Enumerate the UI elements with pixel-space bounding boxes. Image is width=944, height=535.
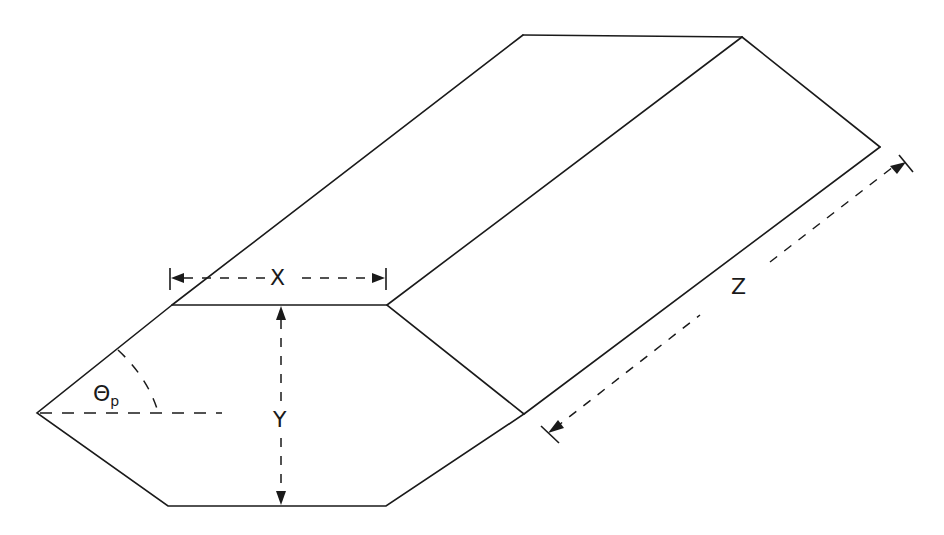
prism-drawing bbox=[0, 0, 944, 535]
edge-back-top bbox=[523, 35, 742, 37]
theta-angle bbox=[40, 350, 222, 413]
theta-subscript: p bbox=[110, 393, 119, 409]
edge-bottom-right-receding bbox=[524, 147, 880, 414]
y-label: Y bbox=[273, 409, 286, 431]
z-label: Z bbox=[731, 276, 746, 298]
theta-label: Θp bbox=[93, 383, 119, 408]
x-label: X bbox=[270, 267, 285, 289]
z-dimension bbox=[541, 155, 913, 443]
edge-top-left-receding bbox=[172, 35, 523, 305]
y-dimension bbox=[276, 306, 286, 505]
theta-symbol: Θ bbox=[93, 381, 110, 406]
diagram-canvas: X Y Z Θp bbox=[0, 0, 944, 535]
edge-back-right bbox=[742, 37, 880, 147]
edge-top-right-receding bbox=[387, 37, 742, 305]
